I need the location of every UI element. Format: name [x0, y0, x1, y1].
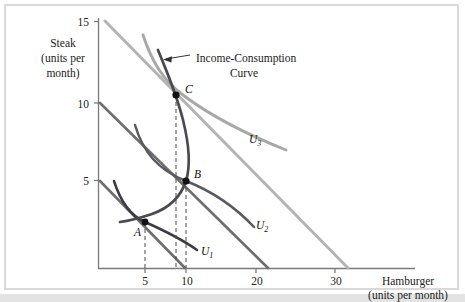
curve-label-u2-subscript: 2: [264, 225, 268, 234]
x-tick-label-30: 30: [330, 275, 342, 287]
curve-label-u1-subscript: 1: [209, 251, 213, 260]
x-axis-units: (units per month): [368, 289, 448, 302]
y-axis-title: Steak: [50, 37, 76, 49]
figure-container: 15 10 5 5 10 20 30 Steak (units per mont…: [0, 0, 465, 302]
icc-annotation-line2: Curve: [230, 67, 258, 79]
point-c-label: C: [185, 83, 193, 95]
y-axis-units-line2: month): [46, 67, 79, 80]
curve-label-u1: U1: [201, 245, 213, 260]
income-consumption-chart: 15 10 5 5 10 20 30 Steak (units per mont…: [0, 0, 465, 302]
icc-annotation-arrowhead: [163, 56, 172, 62]
curve-label-u2: U2: [256, 219, 268, 234]
y-axis-ticks: 15 10 5: [78, 16, 99, 187]
point-b-label: B: [194, 168, 201, 180]
point-b-marker: [182, 177, 189, 184]
x-axis-ticks: 5 10 20 30: [142, 269, 342, 288]
income-consumption-curve: [120, 50, 189, 222]
x-tick-label-10: 10: [181, 275, 193, 287]
x-tick-label-5: 5: [142, 275, 148, 287]
point-a-marker: [142, 219, 149, 226]
y-axis-units-line1: (units per: [41, 52, 85, 65]
y-tick-label-15: 15: [78, 16, 90, 28]
curve-label-u3-subscript: 3: [256, 139, 261, 148]
x-axis-title: Hamburger: [382, 275, 434, 288]
icc-annotation-line1: Income-Consumption: [196, 52, 297, 65]
point-a-label: A: [133, 226, 142, 238]
budget-line-1: [100, 181, 185, 268]
point-c-marker: [172, 91, 179, 98]
y-tick-label-5: 5: [83, 175, 89, 187]
y-tick-label-10: 10: [78, 98, 90, 110]
x-tick-label-20: 20: [251, 275, 263, 287]
curve-label-u3: U3: [249, 133, 261, 148]
icc-annotation: Income-Consumption Curve: [163, 52, 297, 79]
